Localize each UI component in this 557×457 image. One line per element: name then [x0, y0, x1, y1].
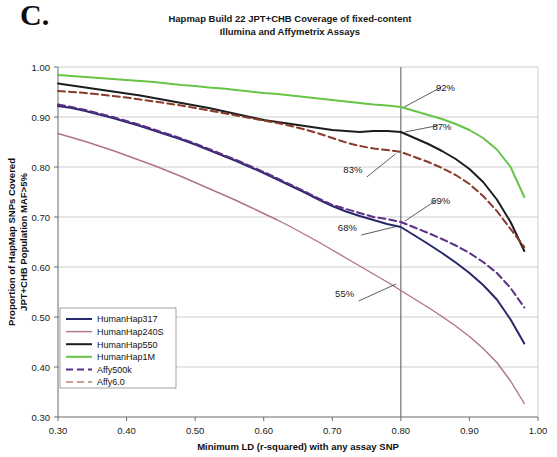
y-tick-label: 0.80 [32, 162, 51, 173]
x-tick-label: 0.50 [186, 425, 205, 436]
coverage-line-chart: 0.300.400.500.600.700.800.901.000.300.40… [0, 0, 557, 457]
y-tick-label: 0.90 [32, 112, 51, 123]
legend-label-humanhap1m: HumanHap1M [97, 352, 155, 362]
annotation-label-68: 68% [338, 222, 358, 233]
y-tick-label: 0.50 [32, 312, 51, 323]
x-tick-label: 0.30 [49, 425, 68, 436]
legend-label-affy6-0: Affy6.0 [97, 377, 125, 387]
x-tick-label: 0.60 [254, 425, 273, 436]
x-tick-label: 1.00 [529, 425, 548, 436]
annotation-label-87: 87% [432, 121, 452, 132]
annotation-label-55: 55% [335, 288, 355, 299]
legend-label-affy500k: Affy500k [97, 365, 132, 375]
annotation-label-92: 92% [436, 82, 456, 93]
y-tick-label: 1.00 [32, 62, 51, 73]
annotation-label-69: 69% [431, 195, 451, 206]
x-tick-label: 0.40 [117, 425, 136, 436]
y-axis-title: Proportion of HapMap SNPs CoveredJPT+CHB… [6, 158, 29, 326]
y-tick-label: 0.40 [32, 362, 51, 373]
x-axis-title: Minimum LD (r-squared) with any assay SN… [197, 441, 399, 452]
legend-label-humanhap317: HumanHap317 [97, 314, 158, 324]
y-axis-title-line: JPT+CHB Population MAF>5% [18, 173, 29, 311]
y-tick-label: 0.70 [32, 212, 51, 223]
y-tick-label: 0.60 [32, 262, 51, 273]
legend-label-humanhap550: HumanHap550 [97, 340, 158, 350]
x-tick-label: 0.80 [392, 425, 411, 436]
legend-label-humanhap240s: HumanHap240S [97, 327, 164, 337]
x-tick-label: 0.90 [460, 425, 479, 436]
y-tick-label: 0.30 [32, 412, 51, 423]
y-axis-title-line: Proportion of HapMap SNPs Covered [6, 158, 17, 326]
annotation-label-83: 83% [343, 164, 363, 175]
x-tick-label: 0.70 [323, 425, 342, 436]
